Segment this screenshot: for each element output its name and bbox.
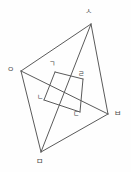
edge-s-b [91,24,108,114]
edge-m-b [41,114,108,152]
section-label-digeut: ㄷ [73,111,79,118]
edge-o-m [21,71,41,152]
figure-canvas [0,0,131,172]
section-label-nieun: ㄴ [37,94,43,101]
edge-o-b [21,71,108,114]
section-edge-d-r [80,79,83,112]
section-label-rieul: ㄹ [78,71,84,78]
vertex-label-ieung: ㅇ [7,66,14,74]
section-edge-g-n [44,72,55,100]
edge-o-s [21,24,91,71]
vertex-label-bieup: ㅂ [114,110,121,118]
geometry-figure: ㅅ ㅇ ㅂ ㅁ ㄱ ㄴ ㄷ ㄹ [0,0,131,172]
solid-edges [21,24,108,152]
vertex-label-mieum: ㅁ [36,158,43,166]
vertex-label-siot: ㅅ [85,8,92,16]
section-label-giyeok: ㄱ [49,61,55,68]
